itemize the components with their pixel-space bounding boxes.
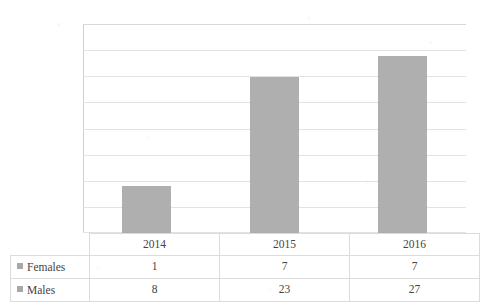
data-table: 2014 2015 2016 Females 1 7 7 Males 8 23 … bbox=[10, 233, 480, 302]
cell-males-2016: 27 bbox=[350, 278, 480, 301]
cell-females-2015: 7 bbox=[220, 256, 350, 279]
cell-females-2014: 1 bbox=[90, 256, 220, 279]
table-row-years: 2014 2015 2016 bbox=[11, 234, 480, 256]
table-header-2014: 2014 bbox=[90, 234, 220, 256]
plot-area: 40 35 30 25 20 15 10 5 0 bbox=[83, 24, 466, 233]
legend-swatch-males-icon bbox=[17, 286, 23, 292]
cell-males-2015: 23 bbox=[220, 278, 350, 301]
gridline-35 bbox=[83, 50, 466, 51]
table-row-females: Females 1 7 7 bbox=[11, 256, 480, 279]
table-row-males: Males 8 23 27 bbox=[11, 278, 480, 301]
legend-label-females: Females bbox=[27, 261, 65, 273]
bar-2014 bbox=[122, 186, 171, 233]
legend-label-males: Males bbox=[27, 284, 55, 296]
legend-swatch-females-icon bbox=[17, 263, 23, 269]
bar-2016 bbox=[378, 56, 427, 233]
gridline-40 bbox=[83, 24, 466, 25]
table-header-2016: 2016 bbox=[350, 234, 480, 256]
table-header-2015: 2015 bbox=[220, 234, 350, 256]
legend-item-males: Males bbox=[11, 278, 90, 301]
table-corner-blank bbox=[11, 234, 90, 256]
bar-2015 bbox=[250, 77, 299, 233]
bar-chart-with-data-table: 40 35 30 25 20 15 10 5 0 2014 2015 2016 … bbox=[0, 0, 490, 305]
cell-males-2014: 8 bbox=[90, 278, 220, 301]
legend-item-females: Females bbox=[11, 256, 90, 279]
cell-females-2016: 7 bbox=[350, 256, 480, 279]
